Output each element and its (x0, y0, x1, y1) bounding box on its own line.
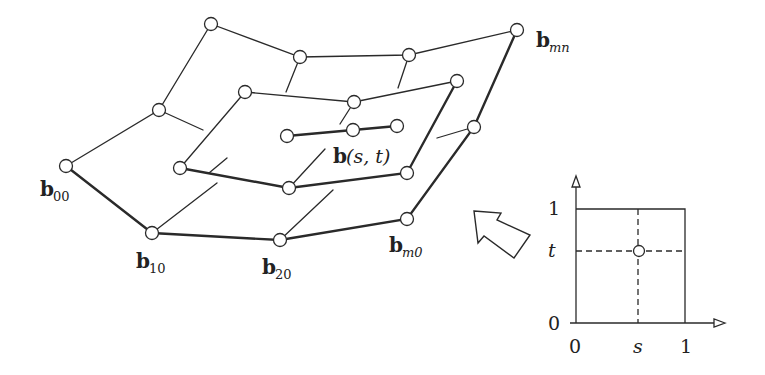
svg-text:b: b (389, 233, 403, 257)
svg-text:mn: mn (549, 40, 570, 55)
y-tick-t: t (548, 239, 556, 261)
label-bmn: b mn (536, 28, 570, 55)
label-b20: b 20 (262, 255, 292, 282)
control-points (60, 18, 524, 247)
label-bst: b (s, t) (333, 144, 390, 168)
svg-text:m0: m0 (402, 245, 423, 260)
svg-text:00: 00 (53, 189, 70, 204)
label-bm0: b m0 (389, 233, 423, 260)
svg-text:b: b (536, 28, 550, 52)
mapping-arrow-icon (474, 211, 530, 258)
x-tick-0: 0 (569, 335, 581, 357)
svg-text:20: 20 (275, 267, 292, 282)
svg-text:10: 10 (149, 261, 166, 276)
svg-text:(s, t): (s, t) (346, 145, 390, 167)
x-tick-s: s (633, 335, 643, 357)
label-b00: b 00 (40, 177, 70, 204)
x-tick-1: 1 (680, 335, 692, 357)
parameter-domain (570, 176, 725, 327)
y-tick-1: 1 (548, 197, 560, 219)
y-tick-0: 0 (548, 312, 560, 334)
bezier-surface-diagram: b 00 b 10 b 20 b m0 b mn b (s, t) 1 t 0 … (0, 0, 765, 375)
svg-text:b: b (40, 177, 54, 201)
svg-text:b: b (136, 249, 150, 273)
svg-text:b: b (262, 255, 276, 279)
label-b10: b 10 (136, 249, 166, 276)
svg-text:b: b (333, 144, 347, 168)
